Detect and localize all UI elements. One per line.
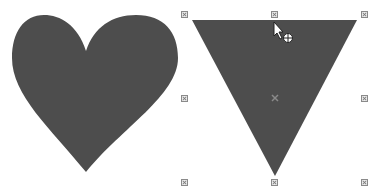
handle-top-left[interactable]	[181, 11, 188, 18]
handle-bottom-center[interactable]	[271, 179, 278, 186]
handle-bottom-right[interactable]	[361, 179, 368, 186]
handle-top-right[interactable]	[361, 11, 368, 18]
heart-shape[interactable]	[12, 15, 178, 172]
handle-middle-right[interactable]	[361, 95, 368, 102]
handle-middle-left[interactable]	[181, 95, 188, 102]
drawing-canvas[interactable]	[0, 0, 376, 196]
handle-top-center[interactable]	[271, 11, 278, 18]
handle-bottom-left[interactable]	[181, 179, 188, 186]
